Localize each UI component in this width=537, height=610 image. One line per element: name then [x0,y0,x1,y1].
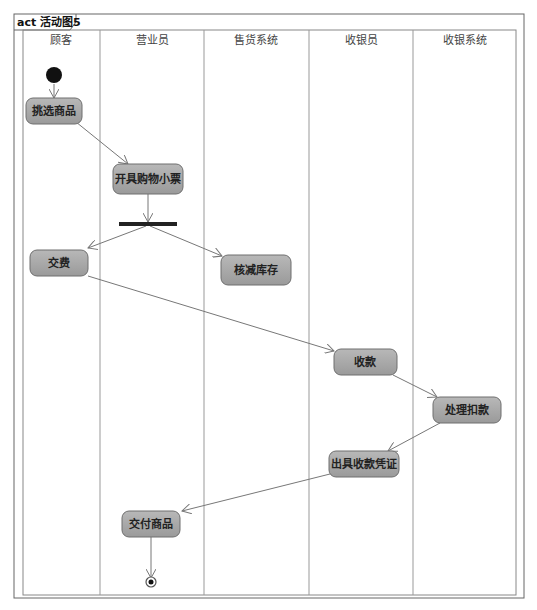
lane-cashier-system: 收银系统 [443,33,487,47]
activity-process-deduction[interactable]: 处理扣款 [433,397,501,423]
lane-sales-system: 售货系统 [234,33,278,47]
fork-bar [119,222,177,226]
activity-label: 交费 [48,256,70,270]
activity-deliver-goods[interactable]: 交付商品 [122,511,180,537]
lane-customer: 顾客 [50,33,72,47]
activity-label: 核减库存 [234,263,278,277]
lane-salesperson: 营业员 [136,33,169,47]
activity-collect-payment[interactable]: 收款 [334,349,397,375]
final-node [146,577,156,587]
activity-label: 处理扣款 [444,403,490,417]
activity-pay[interactable]: 交费 [30,250,88,276]
frame-title: act 活动图5 [17,15,81,29]
activity-select-goods[interactable]: 挑选商品 [26,98,82,124]
activity-label: 出具收款凭证 [331,457,397,471]
activity-issue-receipt[interactable]: 出具收款凭证 [329,451,399,477]
activity-issue-ticket[interactable]: 开具购物小票 [113,164,183,194]
activity-label: 交付商品 [129,517,173,531]
activity-label: 收款 [354,355,377,369]
diagram-frame: act 活动图5 [14,14,524,598]
activity-label: 开具购物小票 [115,172,181,186]
lane-cashier: 收银员 [345,33,378,47]
activity-reduce-inventory[interactable]: 核减库存 [221,255,291,285]
activity-label: 挑选商品 [32,104,76,118]
initial-node [46,67,62,83]
